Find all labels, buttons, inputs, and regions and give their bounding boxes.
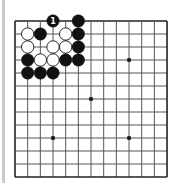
star-point <box>127 58 131 62</box>
white-stone[interactable] <box>21 28 33 40</box>
black-stone[interactable] <box>21 54 33 66</box>
white-stone[interactable] <box>34 54 46 66</box>
go-board-grid[interactable]: 1 <box>0 0 175 183</box>
move-number-label: 1 <box>50 17 56 26</box>
black-stone[interactable] <box>72 28 84 40</box>
white-stone[interactable] <box>47 41 59 53</box>
black-stone[interactable]: 1 <box>47 15 59 27</box>
black-stone[interactable] <box>34 67 46 79</box>
star-point <box>127 136 131 140</box>
black-stone[interactable] <box>21 67 33 79</box>
star-point <box>89 97 93 101</box>
white-stone[interactable] <box>21 41 33 53</box>
white-stone[interactable] <box>59 28 71 40</box>
black-stone[interactable] <box>72 41 84 53</box>
star-point <box>51 136 55 140</box>
go-board[interactable]: 1 <box>0 0 175 183</box>
black-stone[interactable] <box>72 54 84 66</box>
black-stone[interactable] <box>47 67 59 79</box>
black-stone[interactable] <box>34 28 46 40</box>
black-stone[interactable] <box>72 15 84 27</box>
white-stone[interactable] <box>47 54 59 66</box>
black-stone[interactable] <box>59 54 71 66</box>
white-stone[interactable] <box>59 41 71 53</box>
